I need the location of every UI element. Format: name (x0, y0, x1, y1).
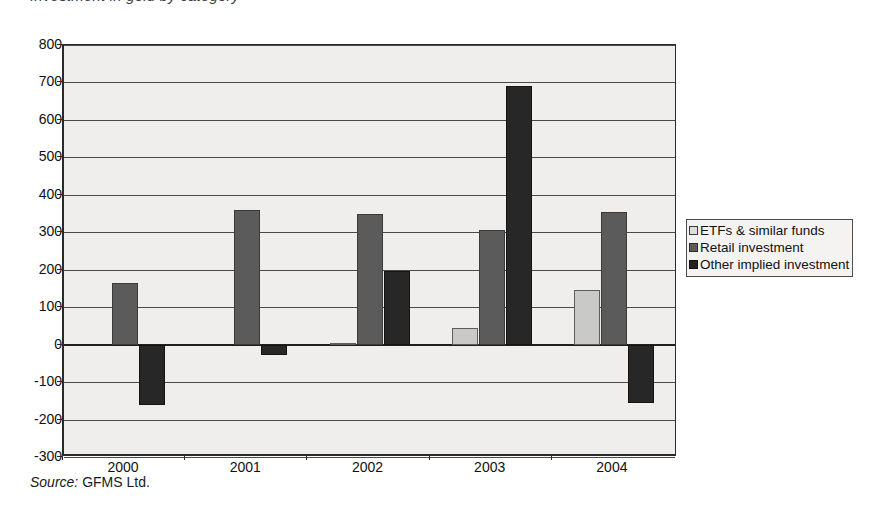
plot-area (62, 44, 676, 456)
y-tick-label: -100 (10, 373, 62, 389)
bar-2004-other (628, 345, 654, 403)
x-axis: 20002001200220032004 (62, 459, 676, 485)
legend-item-etf[interactable]: ETFs & similar funds (689, 222, 849, 239)
legend-swatch-etf-icon (689, 226, 698, 235)
x-tick-label-2004: 2004 (572, 459, 652, 475)
x-tick-label-2002: 2002 (328, 459, 408, 475)
chart-title: Investment in gold by category (30, 0, 239, 4)
x-tick-mark (306, 456, 307, 460)
source-note: Source: GFMS Ltd. (30, 474, 150, 490)
legend-label-other: Other implied investment (700, 257, 849, 272)
y-axis: 8007006005004003002001000-100-200-300 (0, 44, 62, 456)
legend-label-retail: Retail investment (700, 240, 804, 255)
bar-2003-other (506, 86, 532, 344)
y-tick-label: 800 (10, 36, 62, 52)
source-value: GFMS Ltd. (82, 474, 150, 490)
gridline (64, 120, 675, 121)
bar-2003-retail (479, 230, 505, 344)
y-tick-label: 200 (10, 261, 62, 277)
bar-2001-other (261, 345, 287, 355)
y-tick-label: 600 (10, 111, 62, 127)
y-tick-label: -300 (10, 448, 62, 464)
y-tick-label: 100 (10, 298, 62, 314)
x-tick-mark (184, 456, 185, 460)
legend-label-etf: ETFs & similar funds (700, 223, 825, 238)
x-tick-mark (62, 456, 63, 460)
source-label: Source: (30, 474, 78, 490)
bar-2003-etf (452, 328, 478, 345)
x-tick-label-2001: 2001 (205, 459, 285, 475)
bar-2004-retail (601, 212, 627, 345)
x-tick-mark (551, 456, 552, 460)
gridline (64, 195, 675, 196)
chart-figure: Investment in gold by category 800700600… (0, 0, 871, 515)
legend-swatch-other-icon (689, 260, 698, 269)
legend-swatch-retail-icon (689, 243, 698, 252)
gridline (64, 157, 675, 158)
y-tick-label: 0 (10, 336, 62, 352)
bar-2002-other (384, 271, 410, 345)
bar-2001-retail (234, 210, 260, 345)
bar-2004-etf (574, 290, 600, 344)
gridline (64, 45, 675, 46)
y-tick-label: 300 (10, 223, 62, 239)
chart-legend: ETFs & similar fundsRetail investmentOth… (686, 219, 853, 277)
y-tick-label: 500 (10, 148, 62, 164)
bar-2002-etf (330, 343, 356, 345)
legend-item-retail[interactable]: Retail investment (689, 239, 849, 256)
y-tick-label: 400 (10, 186, 62, 202)
legend-item-other[interactable]: Other implied investment (689, 256, 849, 273)
gridline (64, 82, 675, 83)
gridline (64, 457, 675, 458)
bar-2002-retail (357, 214, 383, 344)
gridline (64, 420, 675, 421)
bar-2000-other (139, 345, 165, 405)
y-tick-label: -200 (10, 411, 62, 427)
x-tick-label-2000: 2000 (83, 459, 163, 475)
bar-2000-retail (112, 283, 138, 345)
y-tick-label: 700 (10, 73, 62, 89)
x-tick-label-2003: 2003 (450, 459, 530, 475)
x-tick-mark (429, 456, 430, 460)
